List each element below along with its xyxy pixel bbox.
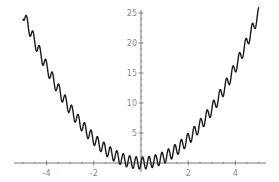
x-tick-label: 2 [186,169,191,178]
y-tick-label: 25 [127,9,137,18]
y-tick-label: 10 [127,99,137,108]
x-tick-label: -4 [43,169,51,178]
y-tick-label: 20 [127,39,137,48]
y-tick-label: 5 [132,129,137,138]
y-tick-label: 15 [127,69,137,78]
x-tick-label: -2 [90,169,98,178]
x-tick-label: 4 [233,169,238,178]
plot-area: -4-224 510152025 [0,0,279,182]
axes: -4-224 510152025 [14,9,266,178]
